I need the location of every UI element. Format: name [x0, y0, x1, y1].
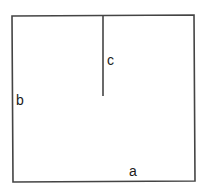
label-c: c: [107, 52, 114, 68]
label-b: b: [16, 92, 24, 108]
label-a: a: [129, 163, 137, 179]
diagram-canvas: c b a: [0, 0, 205, 192]
